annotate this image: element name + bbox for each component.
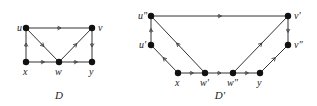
vertex-label: y [256, 77, 262, 88]
arrow-icon [74, 45, 76, 47]
vertex-label: v [98, 22, 103, 33]
vertex-x [23, 59, 29, 65]
vertex-label: w' [200, 77, 210, 88]
vertex-w1 [202, 70, 208, 76]
vertex-w2 [230, 70, 236, 76]
vertex-label: w [55, 66, 62, 77]
vertex-label: u" [138, 10, 148, 21]
vertex-label: x [22, 66, 28, 77]
graph-caption: D' [214, 89, 226, 101]
vertex-v2 [285, 42, 291, 48]
vertex-label: v' [294, 10, 301, 21]
graph-caption: D [54, 89, 63, 101]
vertex-label: v" [294, 39, 303, 50]
vertex-v1 [285, 13, 291, 19]
vertex-y [89, 59, 95, 65]
arrow-icon [164, 59, 166, 61]
vertex-u2 [148, 13, 154, 19]
graph-d-prime: u"u'v'v"xw'w"yD' [138, 10, 303, 101]
vertex-label: y [88, 66, 94, 77]
arrow-icon [273, 59, 275, 61]
vertex-label: u' [139, 39, 147, 50]
graph-d: uvxwyD [17, 22, 103, 101]
vertex-u1 [148, 42, 154, 48]
arrow-icon [259, 44, 261, 46]
vertex-label: u [17, 22, 22, 33]
vertex-v [89, 25, 95, 31]
vertex-label: x [174, 77, 180, 88]
arrow-icon [41, 44, 43, 46]
vertex-w [56, 59, 62, 65]
graph-diagram: uvxwyD u"u'v'v"xw'w"yD' [0, 0, 317, 106]
vertex-y [257, 70, 263, 76]
vertex-x [175, 70, 181, 76]
arrow-icon [178, 44, 180, 46]
vertex-u [23, 25, 29, 31]
vertex-label: w" [227, 77, 239, 88]
